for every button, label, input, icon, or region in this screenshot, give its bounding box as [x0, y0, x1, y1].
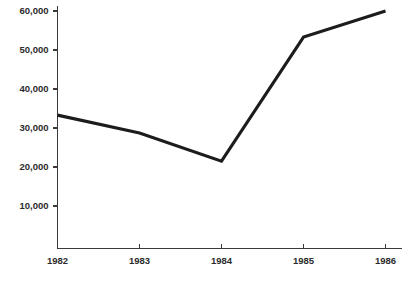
line-chart: 10,00020,00030,00040,00050,00060,000 198…: [0, 0, 409, 282]
x-axis-label: 1986: [375, 255, 396, 266]
x-axis-label: 1982: [47, 255, 68, 266]
y-axis-label: 10,000: [19, 200, 48, 211]
y-axis-label: 30,000: [19, 122, 48, 133]
chart-canvas: 10,00020,00030,00040,00050,00060,000 198…: [0, 0, 409, 282]
x-axis-tick-labels: 19821983198419851986: [47, 255, 396, 266]
y-axis-label: 20,000: [19, 161, 48, 172]
data-series-line: [58, 11, 386, 161]
y-axis-label: 60,000: [19, 5, 48, 16]
x-axis-label: 1985: [293, 255, 315, 266]
x-axis-label: 1984: [211, 255, 233, 266]
y-axis-tick-labels: 10,00020,00030,00040,00050,00060,000: [19, 5, 48, 211]
y-axis-label: 40,000: [19, 83, 48, 94]
x-axis-label: 1983: [129, 255, 150, 266]
y-axis-label: 50,000: [19, 44, 48, 55]
